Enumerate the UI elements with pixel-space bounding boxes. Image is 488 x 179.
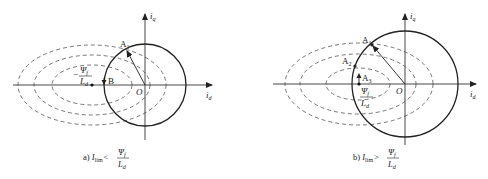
point-B-label: B: [108, 76, 114, 86]
current-vector-A1: [127, 51, 145, 85]
point-A2-label: A2: [342, 56, 352, 67]
current-vector-A1: [373, 46, 405, 84]
point-A1-label: A1: [362, 35, 372, 46]
caption-b: b) Ilim> Ψf Ld: [353, 147, 399, 170]
svg-text:a) Ilim<: a) Ilim<: [83, 152, 109, 163]
ellipse-center-point: [90, 83, 93, 86]
svg-text:Ld: Ld: [360, 98, 370, 109]
svg-text:Ψf: Ψf: [388, 147, 397, 158]
iq-axis-label: iq: [410, 11, 416, 22]
arrow-A3-icon: [357, 73, 362, 78]
svg-text:Ψf: Ψf: [80, 65, 89, 76]
id-axis-label: id: [470, 89, 477, 100]
svg-text:Ld: Ld: [117, 159, 127, 170]
svg-text:b) Ilim>: b) Ilim>: [353, 152, 379, 163]
panel-a: A1 B O id iq − Ψf Ld a) Ilim< Ψf Ld: [13, 11, 213, 170]
diagram-canvas: A1 B O id iq − Ψf Ld a) Ilim< Ψf Ld: [0, 0, 488, 179]
origin-label: O: [136, 87, 143, 97]
svg-text:−: −: [73, 69, 78, 79]
iq-axis-label: iq: [150, 11, 156, 22]
id-axis-label: id: [206, 90, 213, 101]
origin-label: O: [396, 86, 403, 96]
svg-text:Ld: Ld: [387, 159, 397, 170]
caption-a: a) Ilim< Ψf Ld: [83, 147, 129, 170]
arrow-to-B-icon: [102, 80, 107, 85]
point-A2: [353, 64, 356, 67]
center-value-label: − Ψf Ld: [73, 65, 92, 87]
svg-text:Ψf: Ψf: [118, 147, 127, 158]
svg-text:Ψf: Ψf: [361, 86, 370, 97]
point-A1-label: A1: [120, 39, 130, 50]
svg-text:Ld: Ld: [79, 76, 89, 87]
point-A3-label: A3: [362, 73, 372, 84]
panel-b: A1 A2 A3 O id iq Ψf Ld b) Ilim> Ψf Ld: [273, 11, 477, 170]
center-value-label: Ψf Ld: [360, 86, 373, 109]
